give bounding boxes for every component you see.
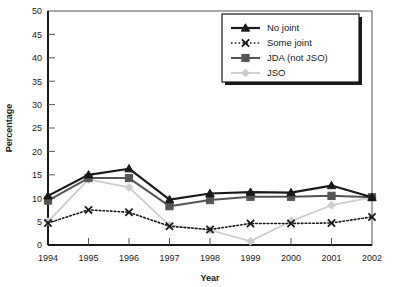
x-axis-title: Year [200, 273, 220, 283]
y-tick-label: 20 [32, 147, 42, 157]
series-point-marker [166, 203, 173, 210]
y-tick-label: 40 [32, 53, 42, 63]
legend-label-4: JSO [267, 67, 285, 78]
y-tick-label: 30 [32, 100, 42, 110]
y-tick-label: 50 [32, 6, 42, 16]
y-tick-label: 25 [32, 123, 42, 133]
y-axis-title: Percentage [4, 104, 14, 153]
legend-label-1: No joint [267, 22, 300, 33]
legend: No jointSome jointJDA (not JSO)JSO [222, 14, 362, 85]
x-tick-label: 1995 [78, 253, 98, 263]
y-tick-label: 45 [32, 30, 42, 40]
line-chart: 0510152025303540455019941995199619971998… [0, 0, 399, 287]
x-tick-label: 1997 [159, 253, 179, 263]
x-tick-label: 1998 [200, 253, 220, 263]
legend-label-2: Some joint [267, 37, 312, 48]
x-tick-label: 2000 [281, 253, 301, 263]
series-point-marker [125, 174, 132, 181]
y-tick-label: 10 [32, 194, 42, 204]
chart-container: 0510152025303540455019941995199619971998… [0, 0, 399, 287]
y-tick-label: 15 [32, 170, 42, 180]
y-tick-label: 35 [32, 77, 42, 87]
y-tick-label: 0 [37, 240, 42, 250]
x-tick-label: 2001 [321, 253, 341, 263]
x-tick-label: 1999 [240, 253, 260, 263]
legend-label-3: JDA (not JSO) [267, 52, 328, 63]
x-tick-label: 1996 [119, 253, 139, 263]
series-point-marker [206, 196, 213, 203]
legend-marker-3-marker [242, 54, 249, 61]
y-tick-label: 5 [37, 217, 42, 227]
x-tick-label: 2002 [362, 253, 382, 263]
series-point-marker [328, 192, 335, 199]
x-tick-label: 1994 [38, 253, 58, 263]
